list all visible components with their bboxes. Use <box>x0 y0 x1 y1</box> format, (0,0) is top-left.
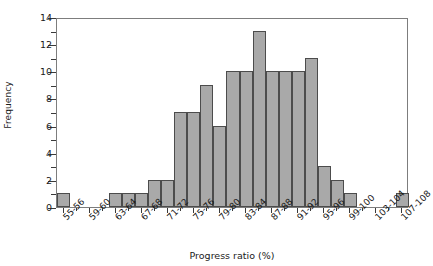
y-axis-tick-label: 6 <box>28 122 52 132</box>
histogram-bar <box>292 71 305 207</box>
x-axis-minor-tick <box>362 208 363 211</box>
x-axis-minor-tick <box>102 208 103 211</box>
y-axis-title: Frequency <box>0 0 16 210</box>
x-axis-minor-tick <box>388 208 389 211</box>
histogram-bar <box>318 166 331 207</box>
histogram-bar <box>279 71 292 207</box>
y-axis-tick-label: 2 <box>28 176 52 186</box>
y-axis-tick-label: 12 <box>28 40 52 50</box>
x-axis-minor-tick <box>232 208 233 211</box>
x-axis-minor-tick <box>180 208 181 211</box>
y-axis-tick-label: 8 <box>28 94 52 104</box>
x-axis-minor-tick <box>128 208 129 211</box>
plot-area <box>56 18 408 208</box>
y-axis-tick-label: 0 <box>28 203 52 213</box>
x-axis-minor-tick <box>76 208 77 211</box>
histogram-bar <box>174 112 187 207</box>
histogram-bar <box>344 193 357 207</box>
histogram-bar <box>213 126 226 207</box>
x-axis-title: Progress ratio (%) <box>56 250 408 261</box>
y-axis-tick-label: 14 <box>28 13 52 23</box>
y-axis-tick-label: 4 <box>28 149 52 159</box>
y-axis-title-text: Frequency <box>3 81 13 128</box>
histogram-bar <box>187 112 200 207</box>
histogram-bar <box>200 85 213 207</box>
x-axis-minor-tick <box>258 208 259 211</box>
histogram-bar <box>226 71 239 207</box>
x-axis-minor-tick <box>206 208 207 211</box>
histogram-bar <box>253 31 266 207</box>
histogram-bar <box>57 193 70 207</box>
x-axis-minor-tick <box>154 208 155 211</box>
histogram-bar <box>240 71 253 207</box>
bars-container <box>57 19 407 207</box>
x-axis-minor-tick <box>336 208 337 211</box>
x-axis-title-text: Progress ratio (%) <box>190 250 275 261</box>
histogram-bar <box>305 58 318 207</box>
histogram-bar <box>266 71 279 207</box>
x-axis-minor-tick <box>284 208 285 211</box>
x-axis-minor-tick <box>310 208 311 211</box>
y-axis-tick-label: 10 <box>28 67 52 77</box>
